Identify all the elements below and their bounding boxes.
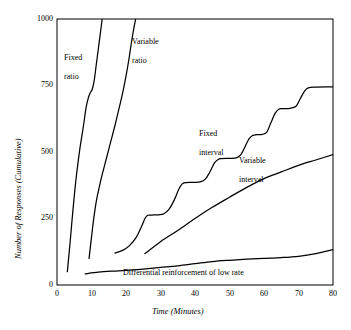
label-drl: Differential reinforcement of low rate: [123, 268, 244, 277]
ytick-750: 750: [29, 81, 53, 89]
x-axis-title: Time (Minutes): [152, 307, 204, 316]
xtick-40: 40: [183, 290, 207, 298]
ytick-500: 500: [29, 148, 53, 156]
xtick-50: 50: [218, 290, 242, 298]
y-axis-title: Number of Responses (Cumulative): [14, 138, 23, 259]
label-fixed-interval: Fixed interval: [199, 120, 223, 157]
xtick-30: 30: [149, 290, 173, 298]
label-variable-ratio: Variable ratio: [132, 28, 159, 65]
label-fixed-ratio-line1: Fixed: [64, 53, 82, 62]
xtick-70: 70: [287, 290, 311, 298]
label-variable-interval: Variable interval: [239, 147, 266, 184]
label-fixed-interval-line1: Fixed: [199, 129, 217, 138]
xtick-10: 10: [80, 290, 104, 298]
ytick-0: 0: [29, 281, 53, 289]
xtick-0: 0: [45, 290, 69, 298]
xtick-20: 20: [114, 290, 138, 298]
label-fixed-ratio: Fixed ratio: [64, 44, 82, 81]
label-variable-interval-line1: Variable: [239, 156, 266, 165]
label-fixed-interval-line2: interval: [199, 148, 223, 157]
xtick-80: 80: [321, 290, 345, 298]
ytick-250: 250: [29, 214, 53, 222]
label-variable-ratio-line2: ratio: [132, 56, 147, 65]
xtick-60: 60: [252, 290, 276, 298]
plot-frame: [57, 19, 333, 285]
cumulative-response-chart: 1000 750 500 250 0 0 10 20 30 40 50 60 7…: [0, 0, 351, 330]
label-variable-interval-line2: interval: [239, 175, 263, 184]
label-fixed-ratio-line2: ratio: [64, 72, 79, 81]
ytick-1000: 1000: [29, 15, 53, 23]
label-variable-ratio-line1: Variable: [132, 37, 159, 46]
